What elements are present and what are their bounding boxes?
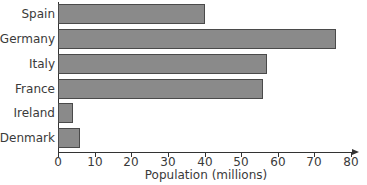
bar-italy xyxy=(58,54,267,74)
x-tick-label: 60 xyxy=(263,155,293,169)
x-tick-label: 20 xyxy=(116,155,146,169)
x-tick-label: 80 xyxy=(336,155,366,169)
bar-ireland xyxy=(58,103,73,123)
x-tick-label: 50 xyxy=(226,155,256,169)
x-tick-label: 40 xyxy=(190,155,220,169)
bar-denmark xyxy=(58,128,80,148)
category-label: Germany xyxy=(0,32,55,46)
x-tick-label: 70 xyxy=(299,155,329,169)
category-label: Italy xyxy=(29,57,55,71)
bar-spain xyxy=(58,4,205,24)
x-axis-label: Population (millions) xyxy=(58,168,354,182)
population-bar-chart: SpainGermanyItalyFranceIrelandDenmark 01… xyxy=(0,0,367,185)
x-tick-label: 10 xyxy=(80,155,110,169)
bar-france xyxy=(58,79,263,99)
bar-germany xyxy=(58,29,336,49)
category-label: Spain xyxy=(21,7,55,21)
x-tick-label: 30 xyxy=(153,155,183,169)
x-axis-line xyxy=(58,152,354,153)
category-label: Denmark xyxy=(0,131,55,145)
category-label: France xyxy=(15,82,55,96)
category-label: Ireland xyxy=(13,106,55,120)
x-tick-label: 0 xyxy=(43,155,73,169)
